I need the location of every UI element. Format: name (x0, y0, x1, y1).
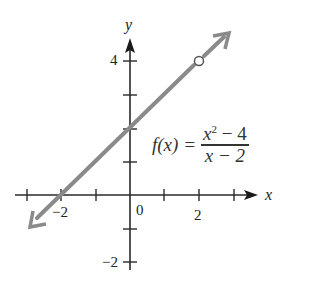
x-tick-label-neg2: −2 (52, 205, 68, 220)
x-tick-label-0: 0 (136, 203, 144, 218)
formula-fraction: x2 − 4 x − 2 (201, 124, 249, 166)
y-axis-label: y (125, 17, 132, 33)
y-tick-label-neg2: −2 (102, 255, 118, 270)
x-axis-label: x (265, 187, 272, 203)
formula-numerator: x2 − 4 (201, 124, 249, 144)
formula-denominator: x − 2 (203, 146, 247, 166)
open-point-hole (195, 57, 204, 66)
y-tick-label-4: 4 (110, 53, 118, 68)
formula-equals: = (184, 134, 195, 156)
x-tick-label-2: 2 (194, 208, 202, 223)
function-formula: f(x) = x2 − 4 x − 2 (152, 124, 249, 166)
formula-lhs: f(x) (152, 134, 178, 156)
